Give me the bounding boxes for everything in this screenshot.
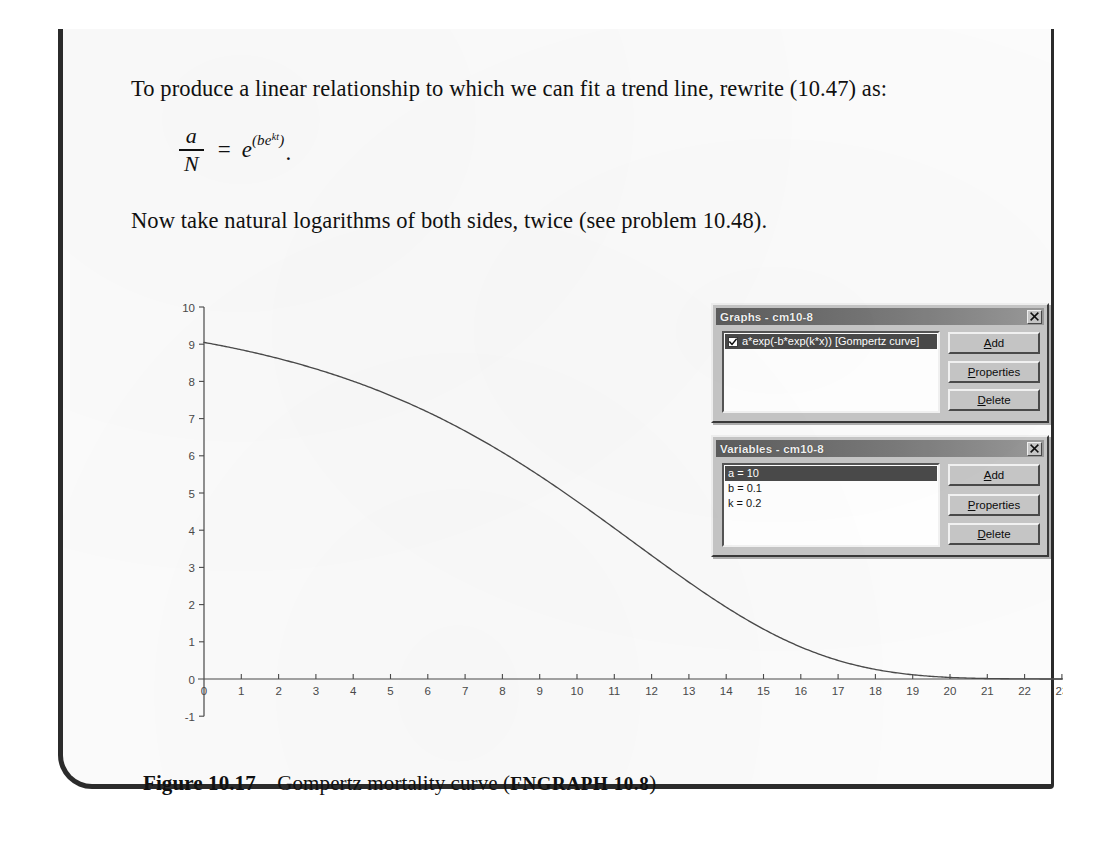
list-item[interactable]: b = 0.1	[725, 481, 937, 496]
x-axis-tick-label: 12	[645, 685, 658, 697]
variables-dialog-titlebar[interactable]: Variables - cm10-8	[716, 440, 1044, 457]
fraction-numerator: a	[181, 125, 202, 147]
x-axis-tick-label: 13	[683, 685, 696, 697]
equation-period: .	[285, 140, 291, 166]
fraction-a-over-N: a N	[179, 125, 204, 175]
graphs-dialog-titlebar[interactable]: Graphs - cm10-8	[716, 308, 1044, 325]
y-axis-tick-label: 3	[189, 562, 195, 574]
x-axis-tick-label: 1	[238, 685, 244, 697]
button-label-rest: roperties	[975, 499, 1020, 511]
button-mnemonic: A	[984, 337, 992, 349]
button-label-rest: elete	[986, 528, 1011, 540]
button-label-rest: elete	[986, 394, 1011, 406]
figure-number: Figure 10.17	[143, 771, 256, 795]
graphs-button-column: AddPropertiesDelete	[948, 331, 1040, 413]
x-axis-tick-label: 19	[906, 685, 919, 697]
page-frame: To produce a linear relationship to whic…	[58, 29, 1054, 789]
scanned-page: To produce a linear relationship to whic…	[0, 0, 1106, 854]
button-mnemonic: P	[968, 499, 976, 511]
button-mnemonic: A	[984, 469, 992, 481]
list-item-label: k = 0.2	[728, 497, 761, 510]
list-item-label: b = 0.1	[728, 482, 762, 495]
list-item-label: a = 10	[728, 467, 759, 480]
button-mnemonic: D	[977, 528, 985, 540]
intro-paragraph: To produce a linear relationship to whic…	[131, 75, 887, 102]
exponent-group: (bekt)	[252, 132, 285, 149]
close-icon[interactable]	[1027, 310, 1042, 324]
y-axis-tick-label: -1	[185, 711, 195, 723]
x-axis-tick-label: 10	[571, 685, 584, 697]
y-axis-tick-label: 5	[189, 488, 195, 500]
figure-source: FNGRAPH 10.8	[510, 773, 649, 794]
x-axis-tick-label: 3	[313, 685, 319, 697]
exponent-body: be	[257, 132, 272, 148]
list-item-label: a*exp(-b*exp(k*x)) [Gompertz curve]	[742, 335, 919, 348]
caption-close-paren: )	[649, 771, 656, 795]
fraction-denominator: N	[179, 153, 204, 175]
x-axis-tick-label: 14	[720, 685, 733, 697]
figure-title: Gompertz mortality curve	[277, 771, 498, 795]
exponent-inner: kt	[272, 131, 280, 142]
x-axis-tick-label: 21	[981, 685, 994, 697]
exponent-close-paren: )	[279, 132, 284, 148]
graphs-dialog-body: a*exp(-b*exp(k*x)) [Gompertz curve] AddP…	[716, 327, 1044, 417]
y-axis-tick-label: 4	[189, 525, 196, 537]
graphs-add-button[interactable]: Add	[948, 332, 1040, 354]
checkbox-icon[interactable]	[728, 337, 738, 347]
graphs-dialog-window[interactable]: Graphs - cm10-8 a*exp(-b*exp(k*x)) [Gomp…	[711, 303, 1049, 423]
x-axis-tick-label: 17	[832, 685, 845, 697]
y-axis-tick-label: 9	[189, 339, 195, 351]
graphs-dialog-title: Graphs - cm10-8	[720, 311, 1027, 323]
x-axis-tick-label: 5	[387, 685, 393, 697]
button-label-rest: dd	[991, 469, 1004, 481]
x-axis-tick-label: 9	[536, 685, 542, 697]
variables-dialog-title: Variables - cm10-8	[720, 443, 1027, 455]
variables-add-button[interactable]: Add	[948, 464, 1040, 486]
button-label-rest: roperties	[975, 366, 1020, 378]
y-axis-tick-label: 7	[189, 413, 195, 425]
x-axis-tick-label: 23	[1056, 685, 1063, 697]
variables-dialog-body: a = 10b = 0.1k = 0.2 AddPropertiesDelete	[716, 459, 1044, 551]
x-axis-tick-label: 0	[201, 685, 207, 697]
graphs-properties-button[interactable]: Properties	[948, 361, 1040, 383]
list-item[interactable]: a = 10	[725, 466, 937, 481]
x-axis-tick-label: 7	[462, 685, 468, 697]
variables-properties-button[interactable]: Properties	[948, 494, 1040, 516]
graphs-listbox[interactable]: a*exp(-b*exp(k*x)) [Gompertz curve]	[722, 331, 940, 413]
y-axis-tick-label: 2	[189, 599, 195, 611]
x-axis-tick-label: 6	[425, 685, 431, 697]
x-axis-tick-label: 18	[869, 685, 882, 697]
x-axis-tick-label: 11	[608, 685, 620, 697]
list-item[interactable]: a*exp(-b*exp(k*x)) [Gompertz curve]	[725, 334, 937, 349]
button-mnemonic: D	[977, 394, 985, 406]
y-axis-tick-label: 10	[182, 302, 195, 314]
y-axis-tick-label: 6	[189, 450, 195, 462]
x-axis-tick-label: 22	[1018, 685, 1031, 697]
equals-sign: =	[218, 137, 231, 163]
graphs-delete-button[interactable]: Delete	[948, 389, 1040, 411]
figure-caption: Figure 10.17 Gompertz mortality curve (F…	[143, 771, 656, 796]
variables-dialog-window[interactable]: Variables - cm10-8 a = 10b = 0.1k = 0.2 …	[711, 435, 1049, 557]
y-axis-tick-label: 0	[189, 674, 195, 686]
display-equation: a N = e (bekt) .	[179, 125, 291, 175]
variables-delete-button[interactable]: Delete	[948, 523, 1040, 545]
x-axis-tick-label: 15	[757, 685, 770, 697]
x-axis-tick-label: 2	[275, 685, 281, 697]
x-axis-tick-label: 20	[944, 685, 957, 697]
x-axis-tick-label: 16	[794, 685, 807, 697]
exponential-base: e	[242, 137, 252, 163]
close-icon[interactable]	[1027, 442, 1042, 456]
y-axis-tick-label: 1	[189, 636, 195, 648]
variables-button-column: AddPropertiesDelete	[948, 463, 1040, 547]
button-label-rest: dd	[991, 337, 1004, 349]
variables-listbox[interactable]: a = 10b = 0.1k = 0.2	[722, 463, 940, 547]
y-axis-tick-label: 8	[189, 376, 195, 388]
x-axis-tick-label: 4	[350, 685, 357, 697]
post-paragraph: Now take natural logarithms of both side…	[131, 207, 767, 234]
x-axis-tick-label: 8	[499, 685, 505, 697]
button-mnemonic: P	[968, 366, 976, 378]
list-item[interactable]: k = 0.2	[725, 496, 937, 511]
